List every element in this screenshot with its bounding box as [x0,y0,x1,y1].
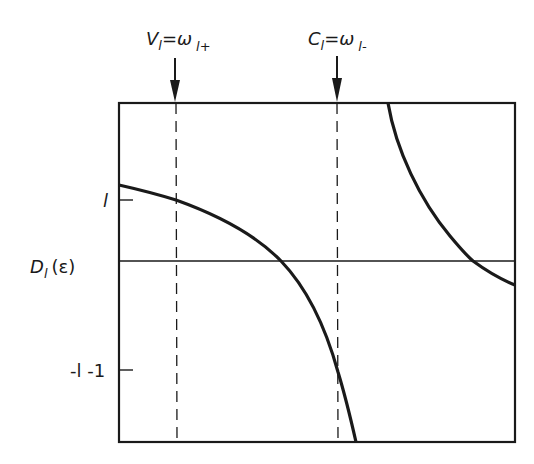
curve-upper-branch [388,103,515,285]
y-axis-label: Dl(ε) [30,256,75,281]
arrow-down-icon [332,56,342,102]
y-tick-label-minus-l-minus-1: -l -1 [70,360,105,381]
marker-line-c [337,103,338,442]
plot-frame [119,103,515,442]
curve-lower-branch [119,185,356,442]
marker-line-v [176,103,177,442]
diagram-canvas: Vl=ωl+ Cl=ωl- l -l -1 Dl(ε) [0,0,534,464]
marker-label-v: Vl=ωl+ [146,28,211,54]
y-tick-label-l: l [103,190,108,211]
marker-label-c: Cl=ωl- [308,28,367,54]
arrow-down-icon [170,58,180,102]
